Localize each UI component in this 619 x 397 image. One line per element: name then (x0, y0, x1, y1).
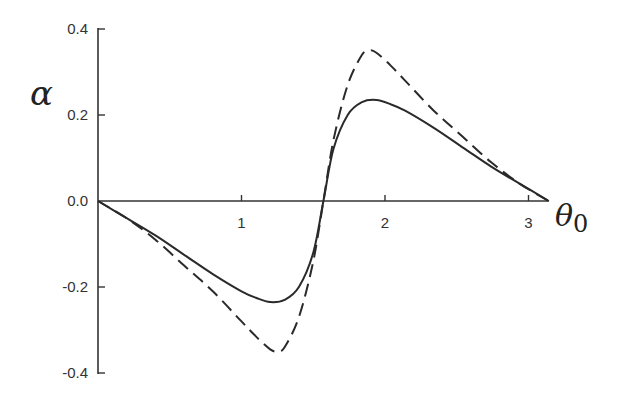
x-tick-label: 3 (524, 214, 532, 231)
chart: 0.40.20.0-0.2-0.4123 α θ0 (0, 0, 619, 397)
y-tick-label: 0.0 (67, 192, 88, 209)
axes: 0.40.20.0-0.2-0.4123 (62, 20, 549, 381)
x-tick-label: 1 (237, 214, 245, 231)
y-tick-label: 0.2 (67, 106, 88, 123)
x-axis-label: θ0 (555, 198, 588, 238)
y-axis-label: α (30, 73, 53, 113)
y-tick-label: -0.2 (62, 278, 88, 295)
y-tick-label: -0.4 (62, 364, 88, 381)
x-tick-label: 2 (381, 214, 389, 231)
x-axis-subscript: 0 (573, 210, 588, 238)
y-tick-label: 0.4 (67, 20, 88, 37)
x-axis-symbol: θ (555, 198, 573, 233)
